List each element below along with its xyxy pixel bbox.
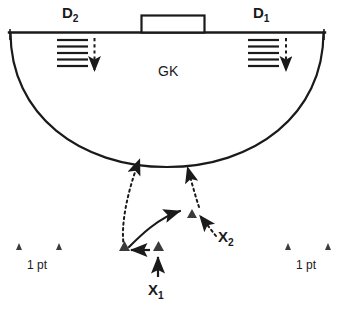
cone-center-right [153, 241, 164, 251]
goal-box [142, 16, 205, 33]
defender-1-label: D1 [253, 4, 270, 24]
run-left-dotted-arrow [123, 161, 139, 247]
goalkeeper-label: GK [158, 63, 178, 79]
diagram-canvas: D2 D1 GK X1 X2 1 pt 1 pt [0, 0, 346, 309]
x2-entry-dotted-arrow [201, 217, 216, 236]
defender-2-label: D2 [62, 4, 79, 24]
d2-hatch-zone [57, 40, 88, 66]
cone-x2 [187, 209, 197, 218]
cone-right-b [325, 243, 331, 250]
run-right-dotted-arrow [188, 169, 199, 207]
court-outline [9, 29, 325, 167]
pass-curve-arrow [129, 211, 180, 247]
court-diagram-svg [0, 0, 346, 309]
attacker-2-label: X2 [218, 228, 234, 248]
cone-left-b [56, 243, 62, 250]
d1-hatch-zone [248, 40, 279, 66]
cone-right-a [285, 243, 291, 250]
points-right-label: 1 pt [296, 258, 316, 272]
cone-markers [16, 209, 331, 251]
attacker-1-label: X1 [148, 281, 164, 301]
points-left-label: 1 pt [27, 258, 47, 272]
cone-left-a [16, 243, 22, 250]
cone-center-left [119, 241, 130, 251]
